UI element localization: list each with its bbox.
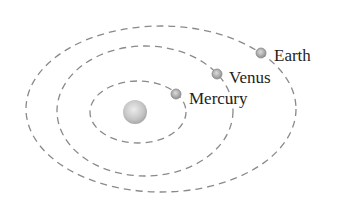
- mercury-label: Mercury: [189, 89, 248, 108]
- venus-planet-icon: [212, 69, 222, 79]
- earth-orbit: [26, 26, 296, 192]
- sun-icon: [123, 100, 147, 124]
- earth-planet-icon: [256, 48, 266, 58]
- venus-label: Venus: [229, 68, 271, 87]
- earth-label: Earth: [274, 46, 311, 65]
- diagram-svg: Mercury Venus Earth: [0, 0, 340, 207]
- solar-system-diagram: Mercury Venus Earth: [0, 0, 340, 207]
- mercury-planet-icon: [171, 89, 181, 99]
